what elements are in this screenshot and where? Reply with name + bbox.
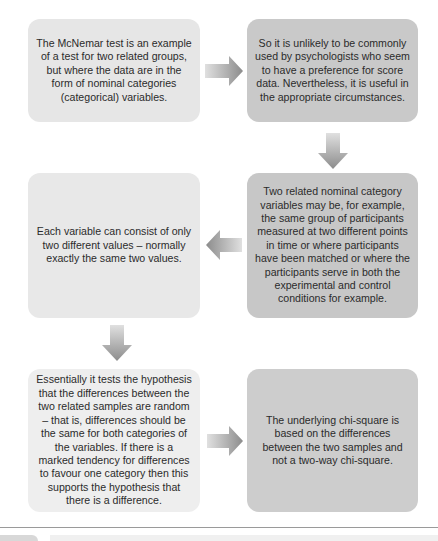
arrow-down-icon (318, 133, 348, 169)
footer-strip (50, 535, 438, 541)
box-unlikely-used: So it is unlikely to be commonly used by… (247, 19, 418, 122)
box-text: The underlying chi-square is based on th… (255, 414, 410, 468)
box-two-values: Each variable can consist of only two di… (28, 173, 200, 318)
arrow-down-icon (102, 325, 132, 361)
box-text: The McNemar test is an example of a test… (36, 37, 192, 104)
arrow-left-icon (206, 230, 242, 260)
box-hypothesis: Essentially it tests the hypothesis that… (28, 369, 200, 512)
box-related-variables: Two related nominal category variables m… (247, 173, 418, 318)
box-text: Each variable can consist of only two di… (36, 225, 192, 265)
divider (0, 527, 438, 528)
box-chi-square: The underlying chi-square is based on th… (247, 369, 418, 512)
footer-tab (0, 535, 38, 541)
box-text: So it is unlikely to be commonly used by… (255, 37, 410, 104)
arrow-right-icon (207, 426, 243, 456)
box-text: Essentially it tests the hypothesis that… (36, 373, 192, 507)
arrow-right-icon (205, 56, 245, 86)
box-text: Two related nominal category variables m… (255, 185, 410, 306)
box-mcnemar-definition: The McNemar test is an example of a test… (28, 19, 200, 122)
